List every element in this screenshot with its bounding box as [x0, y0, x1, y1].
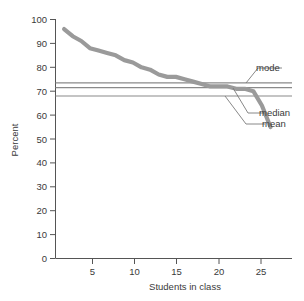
- x-tick-label-10: 10: [129, 266, 140, 277]
- y-tick-label-90: 90: [36, 38, 47, 49]
- y-tick-label-0: 0: [42, 253, 47, 264]
- x-tick-label-20: 20: [214, 266, 225, 277]
- y-tick-label-30: 30: [36, 181, 47, 192]
- x-tick-label-15: 15: [171, 266, 182, 277]
- y-tick-label-70: 70: [36, 86, 47, 97]
- y-tick-label-100: 100: [31, 14, 47, 25]
- annotation-label-mean: mean: [262, 118, 286, 129]
- y-tick-label-60: 60: [36, 110, 47, 121]
- chart-container: 100 90 80 70 60 50 40 30 20 10 0 Percent…: [0, 0, 304, 301]
- x-tick-label-5: 5: [90, 266, 95, 277]
- y-axis-title: Percent: [9, 123, 20, 156]
- annotation-label-mode: mode: [256, 62, 280, 73]
- y-tick-label-80: 80: [36, 62, 47, 73]
- x-axis-title: Students in class: [149, 281, 221, 292]
- annotation-label-median: median: [259, 107, 290, 118]
- y-tick-label-40: 40: [36, 157, 47, 168]
- percent-vs-students-line-chart: 100 90 80 70 60 50 40 30 20 10 0 Percent…: [0, 0, 304, 301]
- y-tick-label-20: 20: [36, 205, 47, 216]
- x-tick-label-25: 25: [256, 266, 267, 277]
- y-tick-label-50: 50: [36, 134, 47, 145]
- y-tick-label-10: 10: [36, 229, 47, 240]
